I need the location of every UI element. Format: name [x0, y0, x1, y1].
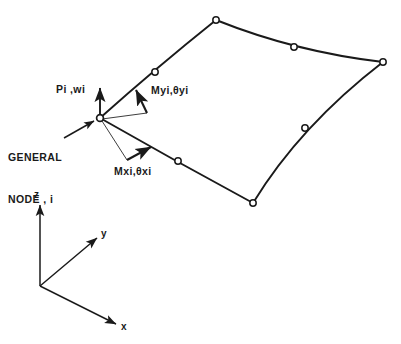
moment-y-leader — [102, 113, 147, 119]
axis-label-z: z — [34, 189, 39, 200]
figure-root: Pi ,wi Myi,θyi Mxi,θxi GENERAL NODE , i … — [0, 0, 401, 344]
edge-top-left — [100, 20, 216, 118]
y-axis — [40, 238, 97, 286]
axis-label-y: y — [101, 228, 107, 239]
label-force-pi-wi: Pi ,wi — [56, 83, 85, 96]
mid-node-top-right — [291, 44, 297, 50]
edge-top-right — [216, 20, 383, 62]
mid-node-bottom-right — [302, 125, 308, 131]
axis-label-x: x — [121, 321, 127, 332]
general-node-leader — [64, 121, 94, 138]
label-moment-y: Myi,θyi — [151, 84, 189, 97]
edge-bottom-right — [253, 62, 383, 203]
corner-node-bottom — [250, 200, 256, 206]
label-general-node-line1: GENERAL — [8, 150, 62, 164]
label-general-node: GENERAL NODE , i — [8, 122, 62, 234]
label-moment-x: Mxi,θxi — [114, 165, 152, 178]
x-axis — [40, 286, 116, 324]
moment-y-double-arrow — [136, 90, 147, 113]
corner-node-right — [380, 59, 386, 65]
general-node-i — [97, 115, 104, 122]
corner-node-top — [213, 17, 219, 23]
moment-x-double-arrow — [127, 147, 151, 160]
mid-node-top-left — [152, 69, 158, 75]
mid-node-bottom-left — [175, 158, 181, 164]
